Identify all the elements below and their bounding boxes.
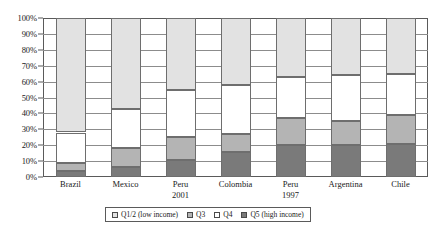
bar-column[interactable] [263, 18, 318, 177]
bar-segment-q4[interactable] [386, 74, 416, 115]
bar-column[interactable] [208, 18, 263, 177]
bar-column[interactable] [98, 18, 153, 177]
legend-item[interactable]: Q3 [187, 211, 205, 219]
x-axis-label: Mexico [98, 179, 153, 190]
x-axis-label-line2: 1997 [263, 190, 318, 201]
bar-segment-q4[interactable] [166, 90, 196, 138]
legend-label: Q1/2 (low income) [121, 211, 178, 219]
bar-segment-q5[interactable] [56, 171, 86, 177]
x-axis-label-line1: Argentina [329, 179, 363, 189]
legend-label: Q3 [196, 211, 205, 219]
legend-label: Q4 [223, 211, 232, 219]
bar-column[interactable] [43, 18, 98, 177]
bar-segment-q3[interactable] [166, 137, 196, 159]
stacked-bar[interactable] [111, 18, 141, 177]
bar-segment-q3[interactable] [56, 163, 86, 171]
bar-segment-q5[interactable] [276, 145, 306, 177]
bar-segment-q4[interactable] [331, 75, 361, 121]
bar-segment-q4[interactable] [56, 133, 86, 163]
y-axis-tick-label: 50% [22, 93, 37, 103]
legend-swatch-icon [241, 212, 247, 218]
plot-area [43, 18, 428, 177]
bar-segment-q5[interactable] [111, 167, 141, 177]
x-axis-label-line2: 2001 [153, 190, 208, 201]
x-axis-label: Chile [373, 179, 428, 190]
x-axis-label: Peru1997 [263, 179, 318, 201]
bar-segment-q3[interactable] [331, 121, 361, 145]
bar-segment-q12[interactable] [221, 18, 251, 85]
stacked-bar[interactable] [56, 18, 86, 177]
legend-swatch-icon [112, 212, 118, 218]
x-axis-label: Peru2001 [153, 179, 208, 201]
x-axis-label: Colombia [208, 179, 263, 190]
x-axis-label-line1: Colombia [219, 179, 253, 189]
y-axis-tick-label: 80% [22, 45, 37, 55]
bar-column[interactable] [153, 18, 208, 177]
y-axis-tick-label: 10% [22, 156, 37, 166]
legend-swatch-icon [187, 212, 193, 218]
x-axis-label: Argentina [318, 179, 373, 190]
y-axis-tick-label: 100% [18, 13, 37, 23]
bar-segment-q3[interactable] [276, 118, 306, 145]
stacked-bar[interactable] [386, 18, 416, 177]
chart-legend: Q1/2 (low income)Q3Q4Q5 (high income) [105, 207, 311, 222]
y-axis: 100%90%80%70%60%50%40%30%20%10%0% [0, 18, 43, 177]
stacked-bar[interactable] [166, 18, 196, 177]
legend-item[interactable]: Q1/2 (low income) [112, 211, 178, 219]
bar-segment-q5[interactable] [331, 145, 361, 177]
bar-segment-q12[interactable] [276, 18, 306, 77]
bar-segment-q12[interactable] [111, 18, 141, 109]
legend-item[interactable]: Q5 (high income) [241, 211, 303, 219]
y-axis-tick-label: 0% [26, 172, 37, 182]
bar-segment-q12[interactable] [386, 18, 416, 74]
y-axis-tick-label: 40% [22, 108, 37, 118]
legend-swatch-icon [214, 212, 220, 218]
stacked-bar[interactable] [221, 18, 251, 177]
bar-segment-q4[interactable] [111, 109, 141, 149]
stacked-bar[interactable] [331, 18, 361, 177]
x-axis-label-line1: Peru [283, 179, 299, 189]
bar-column[interactable] [318, 18, 373, 177]
bar-segment-q5[interactable] [386, 144, 416, 177]
bar-segment-q3[interactable] [386, 115, 416, 144]
bar-segment-q3[interactable] [111, 148, 141, 167]
bar-segment-q5[interactable] [166, 160, 196, 177]
bar-segment-q12[interactable] [166, 18, 196, 90]
y-axis-tick-label: 60% [22, 77, 37, 87]
x-axis-label-line1: Brazil [60, 179, 81, 189]
y-axis-tick-label: 30% [22, 124, 37, 134]
y-axis-tick-label: 70% [22, 61, 37, 71]
bar-segment-q12[interactable] [56, 18, 86, 132]
bar-segment-q4[interactable] [276, 77, 306, 118]
stacked-bar-chart-figure: 100%90%80%70%60%50%40%30%20%10%0% Brazil… [0, 0, 439, 234]
bar-column[interactable] [373, 18, 428, 177]
legend-item[interactable]: Q4 [214, 211, 232, 219]
bar-segment-q5[interactable] [221, 152, 251, 177]
bar-segment-q4[interactable] [221, 85, 251, 134]
bar-segment-q3[interactable] [221, 134, 251, 151]
legend-label: Q5 (high income) [250, 211, 303, 219]
x-axis-label: Brazil [43, 179, 98, 190]
x-axis-label-line1: Mexico [113, 179, 139, 189]
y-axis-tick-label: 90% [22, 29, 37, 39]
stacked-bar[interactable] [276, 18, 306, 177]
x-axis-label-line1: Chile [391, 179, 409, 189]
bar-series-group [43, 18, 428, 177]
y-axis-tick-label: 20% [22, 140, 37, 150]
bar-segment-q12[interactable] [331, 18, 361, 75]
x-axis-label-line1: Peru [173, 179, 189, 189]
